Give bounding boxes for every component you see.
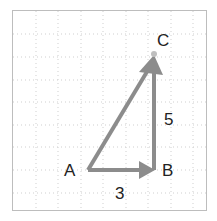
label-bc-length: 5 [164, 110, 173, 129]
point-c [151, 51, 157, 57]
label-ab-length: 3 [115, 184, 124, 203]
label-a: A [64, 161, 76, 180]
vector-ac [88, 70, 148, 170]
grid [13, 11, 206, 210]
arrowhead-c [139, 55, 163, 75]
grid-border [13, 11, 207, 211]
vector-diagram: A B C 3 5 [0, 0, 217, 221]
label-c: C [157, 31, 169, 50]
label-b: B [162, 161, 173, 180]
